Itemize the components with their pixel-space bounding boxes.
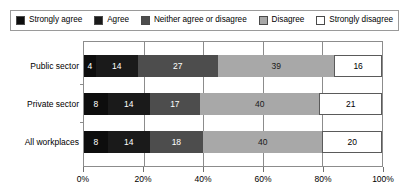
chart-legend: Strongly agreeAgreeNeither agree or disa…: [10, 10, 399, 31]
axis-tick-mark: [80, 84, 84, 85]
bar-segment: 17: [150, 93, 201, 115]
legend-item-label: Neither agree or disagree: [154, 16, 247, 24]
bar-segment: 18: [150, 131, 204, 153]
bar-segment: 40: [203, 131, 322, 153]
axis-tick-label: 20%: [134, 174, 151, 184]
axis-tick-label: 0%: [77, 174, 89, 184]
bar-segment: 21: [319, 93, 382, 115]
axis-tick-mark: [80, 122, 84, 123]
bar-segment: 14: [108, 93, 150, 115]
stacked-bar: 414273916: [84, 55, 382, 77]
square-swatch-icon: [94, 16, 103, 25]
legend-item[interactable]: Agree: [94, 16, 129, 25]
plot-area: 414273916814174021814184020: [83, 41, 383, 167]
square-swatch-icon: [16, 16, 25, 25]
axis-tick-mark: [83, 167, 84, 172]
axis-tick-mark: [143, 167, 144, 172]
bar-segment: 8: [84, 131, 108, 153]
bar-segment: 40: [200, 93, 319, 115]
legend-item-label: Strongly disagree: [329, 16, 393, 24]
axis-tick-label: 100%: [372, 174, 394, 184]
legend-item-label: Agree: [107, 16, 129, 24]
axis-tick-mark: [383, 167, 384, 172]
x-axis: 0%20%40%60%80%100%: [83, 167, 383, 191]
axis-tick-label: 60%: [254, 174, 271, 184]
legend-item-label: Strongly agree: [29, 16, 82, 24]
category-label: All workplaces: [1, 137, 79, 147]
category-label: Private sector: [1, 99, 79, 109]
axis-tick-mark: [263, 167, 264, 172]
gridline: [382, 42, 383, 166]
bar-segment: 4: [84, 55, 96, 77]
axis-tick-mark: [323, 167, 324, 172]
axis-tick-mark: [203, 167, 204, 172]
bar-segment: 14: [108, 131, 150, 153]
stacked-bar: 814174021: [84, 93, 382, 115]
bar-segment: 27: [138, 55, 218, 77]
legend-item[interactable]: Strongly agree: [16, 16, 82, 25]
legend-item[interactable]: Strongly disagree: [316, 16, 393, 25]
category-axis-labels: Public sectorPrivate sectorAll workplace…: [0, 41, 79, 167]
square-swatch-icon: [141, 16, 150, 25]
square-swatch-icon: [259, 16, 268, 25]
bar-segment: 39: [218, 55, 334, 77]
axis-tick-label: 40%: [194, 174, 211, 184]
bar-segment: 8: [84, 93, 108, 115]
axis-tick-label: 80%: [314, 174, 331, 184]
category-label: Public sector: [1, 61, 79, 71]
stacked-bar: 814184020: [84, 131, 382, 153]
legend-item[interactable]: Disagree: [259, 16, 305, 25]
bar-segment: 20: [322, 131, 382, 153]
legend-item[interactable]: Neither agree or disagree: [141, 16, 247, 25]
legend-item-label: Disagree: [272, 16, 305, 24]
square-swatch-icon: [316, 16, 325, 25]
bar-segment: 14: [96, 55, 138, 77]
bar-segment: 16: [334, 55, 382, 77]
